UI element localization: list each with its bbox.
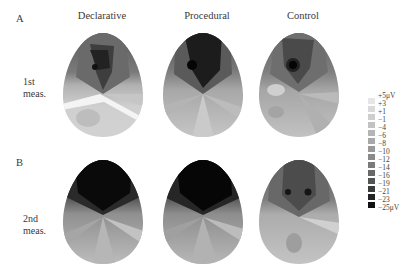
legend-swatch	[368, 138, 375, 144]
scalp-map-b-control	[258, 159, 340, 265]
legend-swatch	[368, 170, 375, 176]
legend-swatch	[368, 194, 375, 200]
row-label-line: meas.	[23, 88, 46, 100]
column-title-procedural: Procedural	[162, 10, 252, 21]
legend-swatch	[368, 146, 375, 152]
legend-label: −25μV	[378, 204, 399, 212]
row-label-line: 1st	[23, 76, 46, 88]
scalp-map-b-procedural	[162, 159, 244, 265]
scalp-map-b-declarative	[62, 159, 144, 265]
legend-swatch	[368, 106, 375, 112]
row-label-line: meas.	[23, 225, 46, 237]
row-label-1st-meas: 1st meas.	[23, 76, 46, 100]
scalp-map-a-declarative	[62, 32, 144, 138]
scalp-map-a-control	[258, 32, 340, 138]
legend-swatch	[368, 154, 375, 160]
legend-swatch	[368, 186, 375, 192]
scalp-map-a-procedural	[162, 32, 244, 138]
column-title-declarative: Declarative	[57, 10, 147, 21]
legend-swatch	[368, 98, 375, 104]
legend-swatch	[368, 202, 375, 208]
row-label-2nd-meas: 2nd meas.	[23, 213, 46, 237]
panel-letter-a: A	[16, 13, 24, 24]
legend-swatch	[368, 130, 375, 136]
legend-swatch	[368, 114, 375, 120]
legend-swatch	[368, 162, 375, 168]
row-label-line: 2nd	[23, 213, 46, 225]
column-title-control: Control	[258, 10, 348, 21]
panel-letter-b: B	[16, 157, 23, 168]
legend-swatch	[368, 178, 375, 184]
legend-swatch	[368, 122, 375, 128]
